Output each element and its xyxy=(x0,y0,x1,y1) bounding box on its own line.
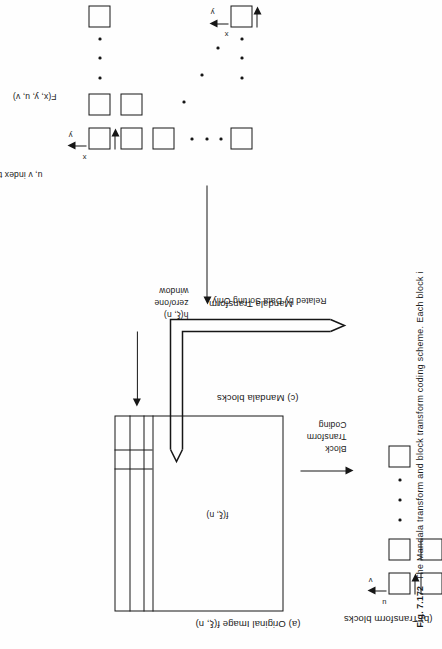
scanned-sheet: (a) Original Image f(ξ, n) f(ξ, n) h(ξ, … xyxy=(0,0,442,649)
caption-label: Fig. 7.172 xyxy=(414,585,424,627)
data-sorting-label: Related by Data Sorting Only xyxy=(212,295,326,305)
figure-page: (a) Original Image f(ξ, n) f(ξ, n) h(ξ, … xyxy=(0,0,442,649)
data-sorting-double-arrow xyxy=(0,0,442,649)
figure-caption: Fig. 7.172 The Mandala transform and blo… xyxy=(414,271,424,627)
caption-text: The Mandala transform and block transfor… xyxy=(414,271,424,580)
